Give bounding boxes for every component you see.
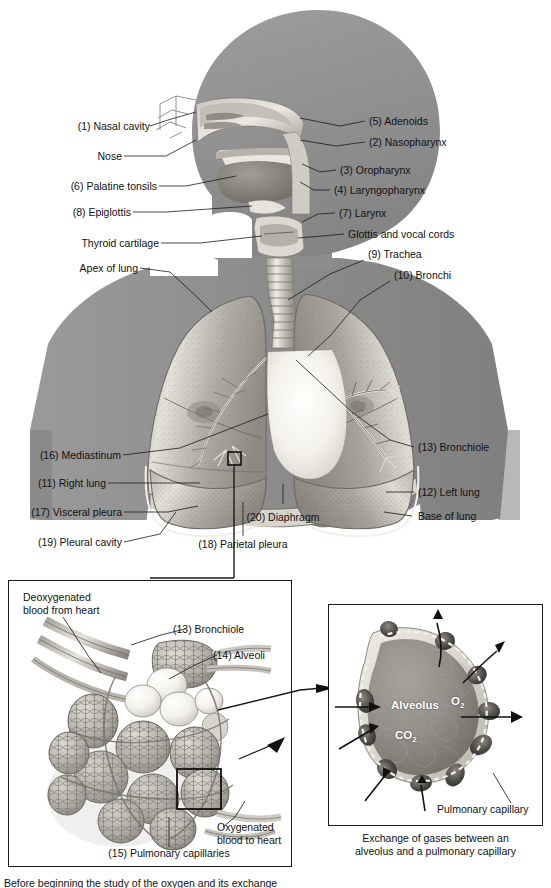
gas-exchange-caption-line2: alveolus and a pulmonary capillary: [328, 845, 543, 858]
label-glottis-vocal-cords: Glottis and vocal cords: [348, 228, 454, 240]
label-o2: O2: [451, 695, 464, 710]
label-base-of-lung: Base of lung: [418, 510, 476, 522]
label-palatine-tonsils: (6) Palatine tonsils: [2, 180, 157, 192]
label-visceral-pleura: (17) Visceral pleura: [2, 506, 122, 518]
label-nasopharynx: (2) Nasopharynx: [369, 136, 447, 148]
label-panel-alveoli: (14) Alveoli: [213, 649, 265, 661]
label-mediastinum: (16) Mediastinum: [2, 449, 121, 461]
label-parietal-pleura: (18) Parietal pleura: [178, 538, 308, 550]
gas-exchange-caption-line1: Exchange of gases between an: [328, 832, 543, 845]
label-deoxygenated-line1: Deoxygenated: [23, 591, 91, 603]
label-pulmonary-capillaries: (15) Pulmonary capillaries: [69, 847, 269, 859]
bottom-caption-clipped: Before beginning the study of the oxygen…: [0, 878, 551, 888]
label-trachea: (9) Trachea: [368, 248, 422, 260]
label-epiglottis: (8) Epiglottis: [2, 206, 131, 218]
label-co2: CO2: [395, 729, 417, 744]
label-alveolus: Alveolus: [391, 699, 439, 711]
label-bronchi: (10) Bronchi: [394, 269, 451, 281]
label-bronchiole-main: (13) Bronchiole: [418, 441, 489, 453]
label-thyroid-cartilage: Thyroid cartilage: [2, 237, 159, 249]
label-adenoids: (5) Adenoids: [369, 115, 428, 127]
label-larynx: (7) Larynx: [339, 207, 386, 219]
label-diaphragm: (20) Diaphragm: [228, 511, 338, 523]
label-pleural-cavity: (19) Pleural cavity: [2, 536, 122, 548]
label-oxygenated-line1: Oxygenated: [217, 821, 274, 833]
panel-gas-exchange: Alveolus O2 CO2 Pulmonary capillary: [328, 604, 543, 826]
label-left-lung: (12) Left lung: [418, 486, 480, 498]
label-apex-of-lung: Apex of lung: [2, 262, 138, 274]
label-pulmonary-capillary: Pulmonary capillary: [437, 803, 529, 815]
label-oxygenated-line2: blood to heart: [217, 834, 281, 846]
label-deoxygenated-line2: blood from heart: [23, 604, 99, 616]
label-right-lung: (11) Right lung: [2, 477, 106, 489]
panel-alveoli-cluster: Deoxygenated blood from heart (13) Bronc…: [8, 580, 292, 867]
label-nasal-cavity: (1) Nasal cavity: [2, 120, 150, 132]
gas-exchange-illustration: [329, 605, 544, 827]
label-panel-bronchiole: (13) Bronchiole: [173, 623, 244, 635]
label-laryngopharynx: (4) Laryngopharynx: [334, 184, 425, 196]
figure-canvas: (1) Nasal cavity Nose (6) Palatine tonsi…: [0, 0, 551, 888]
label-nose: Nose: [2, 150, 122, 162]
label-oropharynx: (3) Oropharynx: [340, 164, 411, 176]
